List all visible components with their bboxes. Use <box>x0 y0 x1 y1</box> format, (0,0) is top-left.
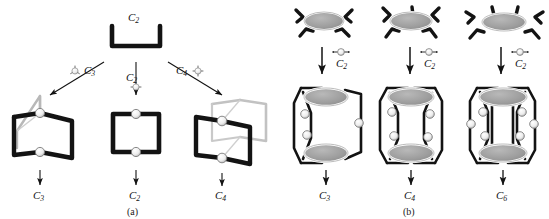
panel-a-branch-label-right: C4 <box>176 65 187 77</box>
panel-a-branch-sub-left: 3 <box>91 69 95 78</box>
panel-b-product-sub-middle: 4 <box>411 194 415 203</box>
panel-b-precursor-middle <box>383 7 439 37</box>
panel-a-product-label-left: C3 <box>33 190 44 202</box>
panel-b-product-label-middle: C4 <box>404 190 415 202</box>
panel-a-arrow-left <box>50 62 104 95</box>
panel-b-precursor-right <box>466 7 543 38</box>
panel-a-product-label-middle: C2 <box>129 190 140 202</box>
panel-a-precursor-sub: 2 <box>135 16 139 25</box>
panel-b-product-sub-right: 6 <box>503 194 507 203</box>
panel-b-arrow-label-left: C2 <box>336 58 347 70</box>
panel-b-product-label-left: C3 <box>319 190 330 202</box>
figure-root: C2 C3 C2 C4 C3 C2 C4 (a) C2 C2 C2 C3 C4 … <box>0 0 549 219</box>
panel-a-product-c3 <box>14 96 72 158</box>
panel-a-node-glyph-left <box>70 66 79 75</box>
panel-a-caption: (a) <box>127 207 138 217</box>
panel-a-precursor-ligand <box>112 26 160 46</box>
panel-b-arrow-label-middle: C2 <box>424 58 435 70</box>
panel-b-product-c6 <box>467 88 539 163</box>
panel-a-node-glyph-right <box>193 66 204 77</box>
panel-a-product-label-right: C4 <box>215 190 226 202</box>
panel-a-branch-label-left: C3 <box>84 65 95 77</box>
panel-b-node-glyph-left <box>332 49 349 56</box>
figure-canvas <box>0 0 549 219</box>
panel-a-branch-sub-right: 4 <box>183 69 187 78</box>
panel-b-product-c3 <box>294 88 363 163</box>
panel-a-product-sub-left: 3 <box>40 194 44 203</box>
panel-b-arrow-label-right: C2 <box>515 58 526 70</box>
panel-a-node-glyph-middle <box>131 84 142 90</box>
panel-b-caption: (b) <box>403 207 415 217</box>
panel-b-precursor-left <box>296 10 352 36</box>
panel-b-product-c4 <box>380 88 442 163</box>
panel-b-arrow-sub-right: 2 <box>522 62 526 71</box>
panel-b-arrow-sub-left: 2 <box>343 62 347 71</box>
panel-b-product-label-right: C6 <box>496 190 507 202</box>
panel-b-product-sub-left: 3 <box>326 194 330 203</box>
panel-b-node-glyph-right <box>511 49 528 56</box>
panel-b-arrow-sub-middle: 2 <box>431 62 435 71</box>
panel-a-branch-label-middle: C2 <box>126 72 137 84</box>
panel-b-node-glyph-middle <box>420 49 437 56</box>
panel-a-product-c2 <box>113 109 159 156</box>
panel-a-product-sub-middle: 2 <box>136 194 140 203</box>
panel-a-precursor-label: C2 <box>128 12 139 24</box>
panel-a-product-c4 <box>196 100 266 164</box>
panel-a-product-sub-right: 4 <box>222 194 226 203</box>
panel-a-branch-sub-middle: 2 <box>133 76 137 85</box>
